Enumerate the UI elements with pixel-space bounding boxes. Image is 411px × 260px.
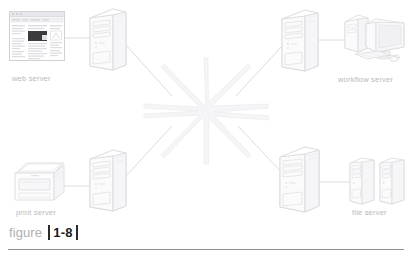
node-label-file-server: file server bbox=[352, 208, 387, 217]
disk-tower-pair-icon bbox=[348, 156, 410, 208]
figure-caption: figure 1-8 bbox=[9, 222, 78, 242]
tower-computer-icon bbox=[278, 145, 322, 215]
node-label-web-server: web server bbox=[12, 74, 51, 83]
tower-computer-icon bbox=[88, 7, 128, 73]
desktop-computer-icon bbox=[342, 10, 410, 68]
node-web-server: web server bbox=[0, 0, 140, 92]
figure-caption-word: figure bbox=[9, 225, 42, 240]
node-label-workflow-server: workflow server bbox=[338, 75, 393, 84]
node-label-print-server: print server bbox=[16, 208, 56, 217]
printer-icon bbox=[12, 160, 68, 208]
horizontal-rule bbox=[8, 249, 404, 250]
node-print-server: print server bbox=[0, 148, 140, 228]
node-workflow-server: workflow server bbox=[270, 0, 411, 92]
starburst-icon bbox=[138, 52, 274, 170]
figure-number-group: 1-8 bbox=[48, 225, 78, 240]
tower-computer-icon bbox=[280, 8, 320, 74]
caption-bar-right bbox=[76, 225, 78, 240]
figure-number: 1-8 bbox=[50, 225, 76, 240]
node-file-server: file server bbox=[268, 140, 411, 225]
tower-computer-icon bbox=[88, 148, 128, 214]
figure-illustration: web server bbox=[0, 0, 411, 260]
browser-window-icon bbox=[9, 11, 65, 61]
